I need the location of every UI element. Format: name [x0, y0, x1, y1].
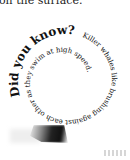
faint-marking: [104, 150, 128, 156]
svg-text:Did you know? Killer wha: Did you know? Killer whales like brushin…: [7, 20, 118, 126]
partial-photo: [10, 123, 70, 149]
